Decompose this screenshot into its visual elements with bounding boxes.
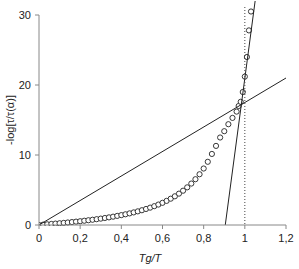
x-tick-label: 0,2 bbox=[73, 232, 88, 244]
data-point bbox=[209, 151, 214, 156]
data-point bbox=[226, 122, 231, 127]
data-point bbox=[230, 115, 235, 120]
chart: 00,20,40,60,811,2 0102030 Tg/T -log[τ/τ(… bbox=[0, 0, 299, 269]
y-tick-label: 0 bbox=[25, 219, 31, 231]
data-point bbox=[189, 181, 194, 186]
data-point bbox=[205, 159, 210, 164]
y-ticks: 0102030 bbox=[19, 9, 39, 231]
y-tick-label: 10 bbox=[19, 149, 31, 161]
data-point bbox=[193, 177, 198, 182]
data-point bbox=[222, 129, 227, 134]
plot-area bbox=[36, 1, 286, 228]
data-point bbox=[201, 166, 206, 171]
x-tick-label: 1 bbox=[242, 232, 248, 244]
x-tick-label: 1,2 bbox=[278, 232, 293, 244]
data-point bbox=[218, 135, 223, 140]
x-tick-label: 0,6 bbox=[155, 232, 170, 244]
x-tick-label: 0 bbox=[36, 232, 42, 244]
data-point bbox=[234, 109, 239, 114]
axes: 00,20,40,60,811,2 0102030 bbox=[19, 9, 294, 244]
x-axis-title: Tg/T bbox=[139, 252, 163, 264]
data-point bbox=[213, 143, 218, 148]
y-tick-label: 20 bbox=[19, 79, 31, 91]
data-point bbox=[248, 9, 253, 14]
fit-line bbox=[225, 1, 255, 225]
x-tick-label: 0,4 bbox=[114, 232, 129, 244]
x-tick-label: 0,8 bbox=[196, 232, 211, 244]
y-tick-label: 30 bbox=[19, 9, 31, 21]
y-axis-title: -log[τ/τ(α)] bbox=[4, 95, 16, 145]
x-ticks: 00,20,40,60,811,2 bbox=[36, 225, 294, 244]
data-point bbox=[197, 172, 202, 177]
